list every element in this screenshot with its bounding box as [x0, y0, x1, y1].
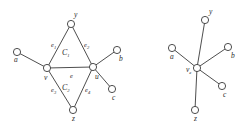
vertex-label-z: z: [193, 114, 197, 123]
vertex-c: [108, 85, 115, 92]
vertex-label-c: c: [112, 93, 116, 102]
vertex-label-ve: ve: [186, 65, 191, 75]
vertex-label-z: z: [71, 114, 75, 123]
edge-a-v: [17, 52, 47, 68]
right-graph: ve y a b c z: [168, 7, 235, 123]
edge-label-e2: e2: [84, 41, 90, 50]
vertex-label-v: v: [44, 73, 48, 82]
edge-ve-c: [197, 68, 222, 86]
vertex-label-c: c: [223, 90, 227, 99]
vertex-c: [218, 82, 225, 89]
vertex-y: [67, 20, 74, 27]
edge-e4-z-u: [73, 67, 93, 110]
vertex-label-b: b: [231, 51, 235, 60]
vertex-b: [113, 46, 120, 53]
edge-ve-b: [197, 47, 228, 68]
vertex-ve: [193, 64, 200, 71]
vertex-z: [69, 106, 76, 113]
vertex-label-u: u: [95, 72, 99, 81]
vertex-u: [89, 63, 96, 70]
right-graph-nodes: [168, 16, 231, 113]
face-label-c1: C1: [62, 48, 70, 58]
left-graph: y a v u b c z e1 e2 e e3 e4: [13, 10, 123, 123]
vertex-label-y: y: [73, 10, 78, 19]
edge-e2-y-u: [71, 24, 93, 67]
graph-contraction-diagram: y a v u b c z e1 e2 e e3 e4: [0, 0, 251, 127]
edge-e-v-u: [47, 67, 93, 68]
face-label-c2: C2: [62, 83, 70, 93]
edge-ve-a: [172, 48, 197, 68]
vertex-label-a: a: [170, 52, 174, 61]
right-graph-vertex-labels: ve y a b c z: [170, 7, 235, 123]
edge-ve-y: [197, 20, 205, 68]
edge-label-e1: e1: [51, 41, 56, 50]
edge-label-e3: e3: [51, 86, 57, 95]
edge-label-e: e: [70, 72, 73, 79]
vertex-label-y: y: [208, 7, 213, 16]
left-graph-edges: [17, 24, 117, 110]
vertex-a: [168, 44, 175, 51]
vertex-y: [201, 16, 208, 23]
edge-ve-z: [195, 68, 197, 110]
vertex-z: [191, 106, 198, 113]
right-graph-edges: [172, 20, 228, 110]
left-graph-face-labels: C1 C2: [62, 48, 70, 93]
vertex-b: [224, 43, 231, 50]
vertex-label-a: a: [14, 55, 18, 64]
vertex-label-b: b: [119, 54, 123, 63]
edge-u-b: [93, 50, 117, 67]
edge-label-e4: e4: [85, 86, 91, 95]
vertex-v: [43, 64, 50, 71]
